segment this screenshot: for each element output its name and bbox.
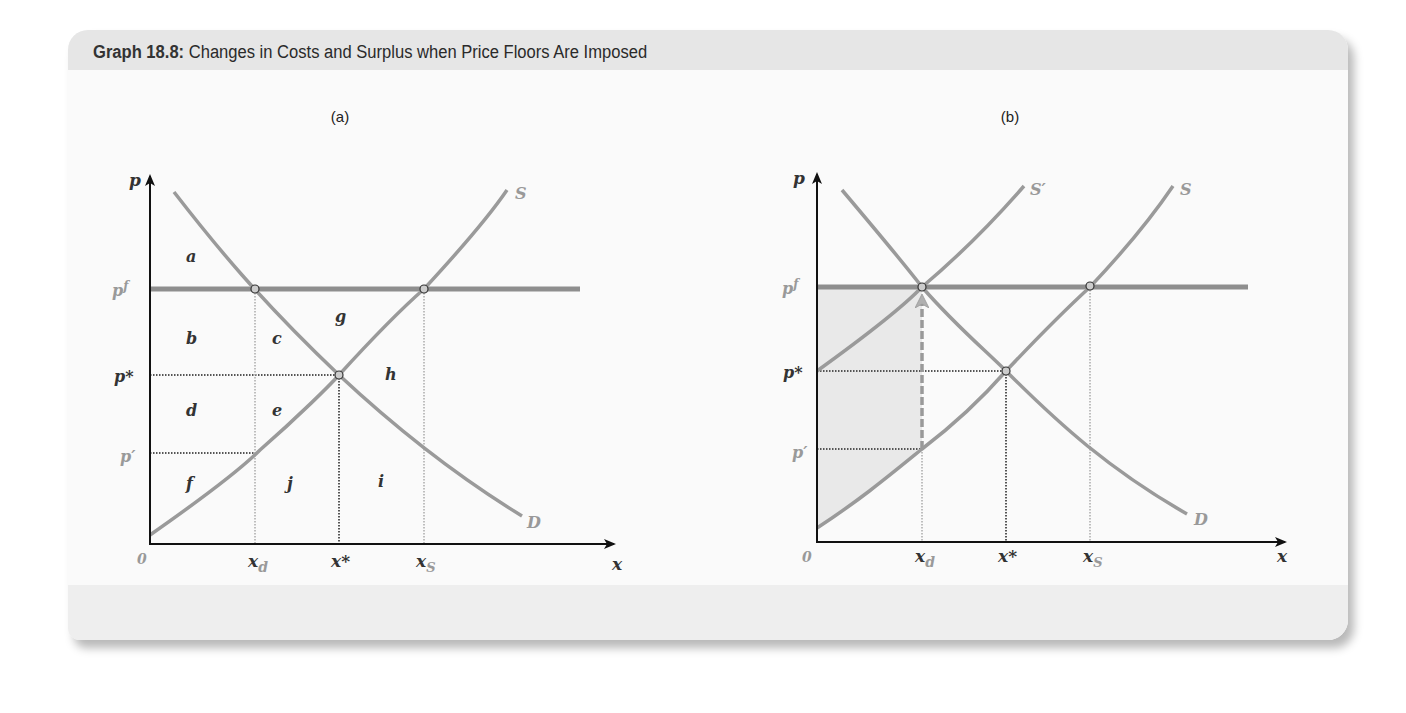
- y-axis-label-b: p: [793, 168, 805, 188]
- region-h: h: [385, 365, 397, 384]
- pf-label: pf: [112, 279, 130, 300]
- region-b: b: [186, 329, 197, 348]
- supply-curve: [150, 190, 507, 535]
- region-d: d: [186, 401, 197, 420]
- pprime-label-b: p′: [792, 443, 808, 462]
- region-j: j: [284, 474, 293, 493]
- panel-a-guides: [150, 375, 339, 543]
- floor-supply-point-b: [1086, 282, 1094, 290]
- demand-label-b: D: [1193, 510, 1208, 529]
- region-g: g: [335, 307, 346, 326]
- floor-demand-point: [251, 285, 259, 293]
- graphs-canvas: (a) p x 0 pf p* p′ xd: [0, 0, 1406, 713]
- xs-label: xS: [415, 551, 436, 575]
- pstar-label-b: p*: [783, 363, 803, 382]
- equilibrium-point: [335, 371, 343, 379]
- floor-supply-point: [420, 285, 428, 293]
- demand-curve: [174, 192, 522, 516]
- xstar-label: x*: [330, 551, 350, 571]
- region-c: c: [272, 329, 282, 348]
- origin-label-b: 0: [802, 549, 812, 565]
- floor-demand-point-b: [918, 283, 926, 291]
- xstar-label-b: x*: [997, 546, 1017, 566]
- region-a: a: [186, 247, 196, 266]
- region-labels: a b c d e f g h i j: [185, 247, 397, 493]
- pprime-label: p′: [120, 447, 136, 466]
- supply-label-b: S: [1180, 180, 1192, 199]
- region-e: e: [272, 401, 282, 420]
- x-axis-label-b: x: [1276, 546, 1288, 566]
- region-i: i: [378, 472, 384, 491]
- equilibrium-point-b: [1002, 367, 1010, 375]
- xd-label-b: xd: [914, 546, 935, 570]
- supply-label: S: [515, 184, 527, 203]
- panel-b: (b) p x 0: [782, 108, 1288, 570]
- demand-label: D: [526, 513, 541, 532]
- origin-label: 0: [137, 551, 147, 567]
- xs-label-b: xS: [1082, 546, 1103, 570]
- panel-a-label: (a): [331, 108, 349, 125]
- x-axis-label: x: [611, 554, 623, 574]
- panel-a: (a) p x 0 pf p* p′ xd: [112, 108, 623, 575]
- panel-b-label: (b): [1001, 108, 1019, 125]
- supply-shifted-label: S′: [1030, 180, 1047, 199]
- y-axis-label: p: [129, 170, 141, 190]
- pstar-label: p*: [114, 367, 134, 386]
- pf-label-b: pf: [782, 277, 800, 298]
- region-f: f: [185, 474, 196, 493]
- xd-label: xd: [247, 551, 268, 575]
